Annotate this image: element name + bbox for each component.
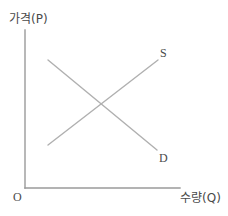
- y-axis-label: 가격(P): [9, 13, 48, 25]
- diagram-canvas: [0, 0, 228, 216]
- x-axis-label: 수량(Q): [180, 192, 221, 204]
- origin-label: O: [13, 191, 22, 203]
- demand-curve-label: D: [159, 152, 168, 164]
- supply-demand-diagram: 가격(P) 수량(Q) O S D: [0, 0, 228, 216]
- supply-curve-label: S: [160, 47, 167, 59]
